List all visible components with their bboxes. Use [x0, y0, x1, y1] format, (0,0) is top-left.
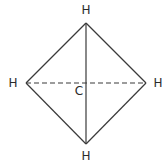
atom-label-center: C [75, 84, 83, 98]
atom-label-right: H [153, 76, 162, 90]
edge-top-right [86, 23, 146, 83]
atom-label-bottom: H [81, 149, 90, 163]
edge-top-left [26, 23, 86, 83]
atom-label-top: H [81, 3, 90, 17]
atom-label-left: H [8, 76, 17, 90]
methane-diagram: H H H H C [0, 0, 168, 166]
edge-bottom-right [86, 83, 146, 144]
